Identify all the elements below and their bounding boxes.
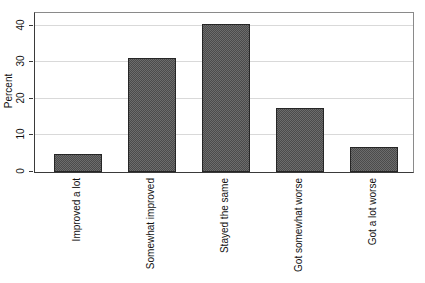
x-tick-label-somewhat-improved: Somewhat improved: [145, 178, 157, 278]
plot-area: [34, 12, 414, 173]
y-tick-mark-30: [29, 61, 33, 62]
y-tick-label-0: 0: [15, 159, 27, 183]
bar-got-somewhat-worse: [276, 108, 324, 172]
x-tick-label-got-a-lot-worse: Got a lot worse: [367, 178, 379, 278]
y-tick-label-30: 30: [15, 49, 27, 73]
bar-chart-figure: Percent 010203040 Improved a lotSomewhat…: [0, 0, 425, 283]
x-tick-label-got-somewhat-worse: Got somewhat worse: [293, 178, 305, 278]
y-tick-label-20: 20: [15, 86, 27, 110]
y-tick-mark-40: [29, 25, 33, 26]
y-axis-title: Percent: [3, 66, 15, 116]
y-tick-mark-20: [29, 98, 33, 99]
bar-somewhat-improved: [128, 58, 176, 172]
x-tick-label-improved-a-lot: Improved a lot: [71, 178, 83, 278]
bar-improved-a-lot: [54, 154, 102, 172]
x-tick-label-stayed-the-same: Stayed the same: [219, 178, 231, 278]
bar-stayed-the-same: [202, 24, 250, 172]
bar-got-a-lot-worse: [350, 147, 398, 172]
y-tick-mark-10: [29, 134, 33, 135]
y-tick-label-10: 10: [15, 122, 27, 146]
y-tick-label-40: 40: [15, 13, 27, 37]
y-tick-mark-0: [29, 171, 33, 172]
